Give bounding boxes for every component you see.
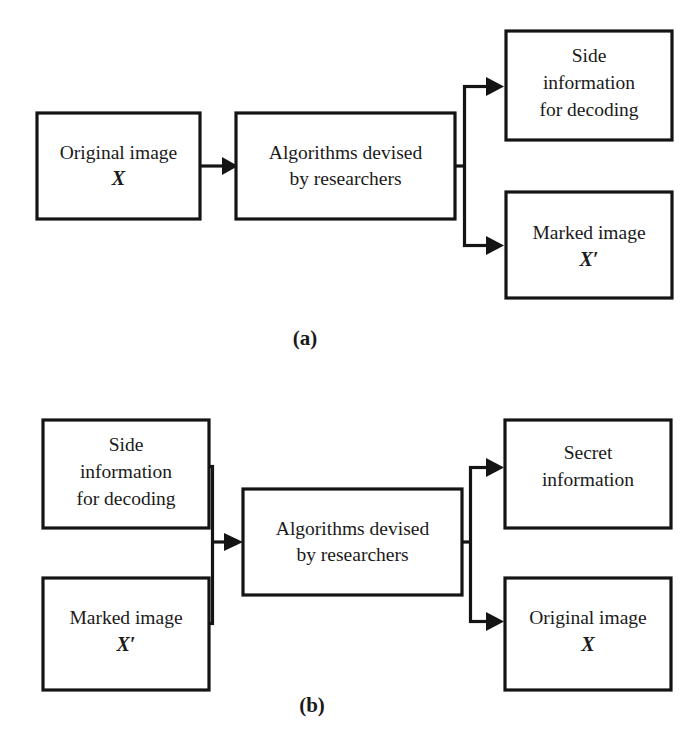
original-image-box-line-2: X xyxy=(111,167,126,189)
algorithms-box-outline xyxy=(236,113,455,219)
marked-image-box-line-2: X′ xyxy=(579,248,599,270)
split-branch-lower-arrow-head xyxy=(486,236,504,255)
figure-root: Original image X Algorithms devised by r… xyxy=(0,0,689,745)
arrow-original-to-algorithms xyxy=(200,157,238,175)
original-image-box-line-1: Original image xyxy=(60,142,178,163)
secret-information-box[interactable]: Secret information xyxy=(505,420,671,528)
split-connector-algorithms-outputs xyxy=(455,77,504,255)
panel-b: Side information for decoding Marked ima… xyxy=(43,420,671,717)
side-information-box-line-2: information xyxy=(543,72,635,93)
merge-connector-inputs-algorithms xyxy=(209,465,243,625)
split-branch-lower-arrow-head xyxy=(486,612,504,631)
marked-image-box[interactable]: Marked image X′ xyxy=(43,578,209,690)
side-information-box-line-3: for decoding xyxy=(539,99,638,120)
merge-arrow-head xyxy=(224,533,243,551)
algorithms-box-line-1: Algorithms devised xyxy=(276,518,430,539)
split-branch-upper-arrow-head xyxy=(486,77,504,96)
side-information-box[interactable]: Side information for decoding xyxy=(506,31,672,140)
marked-image-box-line-1: Marked image xyxy=(69,607,182,628)
algorithms-box-outline xyxy=(243,489,462,595)
side-information-box[interactable]: Side information for decoding xyxy=(43,420,209,528)
side-information-box-line-1: Side xyxy=(572,45,607,66)
marked-image-box-line-1: Marked image xyxy=(532,222,645,243)
secret-information-box-line-2: information xyxy=(542,469,634,490)
side-information-box-line-1: Side xyxy=(109,434,144,455)
algorithms-box[interactable]: Algorithms devised by researchers xyxy=(243,489,462,595)
original-image-box-line-1: Original image xyxy=(529,607,647,628)
secret-information-box-line-1: Secret xyxy=(564,442,613,463)
marked-image-box-line-2: X′ xyxy=(116,633,136,655)
split-branch-upper-arrow-head xyxy=(486,458,504,477)
algorithms-box[interactable]: Algorithms devised by researchers xyxy=(236,113,455,219)
panel-a-label: (a) xyxy=(293,326,318,350)
original-image-box-line-2: X xyxy=(580,633,595,655)
algorithms-box-line-1: Algorithms devised xyxy=(269,142,423,163)
marked-image-box-outline xyxy=(506,192,672,298)
side-information-box-line-3: for decoding xyxy=(76,488,175,509)
original-image-box[interactable]: Original image X xyxy=(37,113,200,219)
original-image-box[interactable]: Original image X xyxy=(505,578,671,690)
panel-a: Original image X Algorithms devised by r… xyxy=(37,31,672,350)
side-information-box-line-2: information xyxy=(80,461,172,482)
marked-image-box[interactable]: Marked image X′ xyxy=(506,192,672,298)
algorithms-box-line-2: by researchers xyxy=(296,544,408,565)
panel-b-label: (b) xyxy=(299,693,325,717)
split-connector-algorithms-outputs xyxy=(462,458,504,631)
diagram-canvas: Original image X Algorithms devised by r… xyxy=(0,0,689,745)
algorithms-box-line-2: by researchers xyxy=(289,168,401,189)
